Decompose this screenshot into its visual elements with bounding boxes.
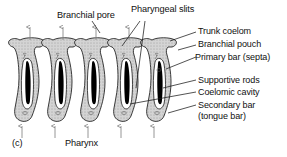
leader-primary-bar <box>166 57 196 69</box>
inflow-arrows <box>22 126 154 138</box>
label-branchial-pouch: Branchial pouch <box>198 39 261 49</box>
label-pharyngeal-slits: Pharyngeal slits <box>131 4 194 14</box>
leader-branchial-pouch <box>178 45 196 50</box>
branchial-unit <box>108 38 144 122</box>
label-supportive-rods: Supportive rods <box>198 75 260 85</box>
label-primary-bar: Primary bar (septa) <box>195 52 270 62</box>
label-branchial-pore: Branchial pore <box>57 10 115 20</box>
branchial-unit <box>75 38 111 122</box>
outflow-arrows <box>30 27 129 40</box>
leader-trunk-coelom <box>170 32 196 41</box>
branchial-unit <box>9 38 45 122</box>
leader-pharyngeal-slits-b <box>136 21 145 88</box>
leader-secondary-bar <box>168 105 196 113</box>
leader-lines <box>92 21 196 113</box>
label-trunk-coelom: Trunk coelom <box>198 26 251 36</box>
label-coelomic-cavity: Coelomic cavity <box>198 87 260 97</box>
branchial-unit <box>42 38 78 122</box>
panel-label: (c) <box>12 138 22 148</box>
label-pharynx: Pharynx <box>65 138 98 148</box>
diagram-body <box>9 21 196 138</box>
branchial-unit <box>141 38 177 122</box>
branchial-units <box>9 38 177 122</box>
label-tongue-bar: (tongue bar) <box>198 111 246 121</box>
figure-container: Branchial pore Pharyngeal slits Trunk co… <box>0 0 287 157</box>
label-secondary-bar: Secondary bar <box>198 100 255 110</box>
